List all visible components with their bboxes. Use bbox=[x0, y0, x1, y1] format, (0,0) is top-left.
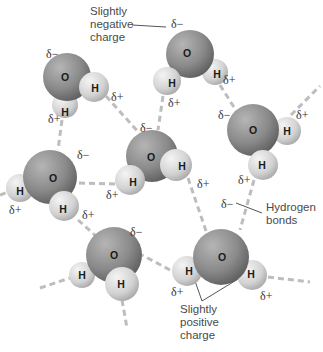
partial-positive: δ+ bbox=[168, 96, 180, 111]
atom-oxygen: O bbox=[218, 251, 226, 263]
partial-negative: δ− bbox=[221, 197, 233, 212]
hydrogen-bond bbox=[142, 255, 170, 270]
label-hydrogen-bonds: Hydrogen bonds bbox=[266, 201, 316, 227]
atom-hydrogen: H bbox=[258, 159, 266, 171]
partial-positive: δ+ bbox=[106, 188, 118, 203]
label-slightly-positive-charge: Slightly positive charge bbox=[180, 303, 219, 342]
partial-negative: δ− bbox=[140, 121, 152, 136]
atom-hydrogen: H bbox=[59, 203, 67, 215]
hydrogen-bond bbox=[40, 278, 70, 288]
atom-hydrogen: H bbox=[117, 278, 125, 290]
atom-hydrogen: H bbox=[91, 82, 99, 94]
partial-positive: δ+ bbox=[238, 173, 250, 188]
atom-hydrogen: H bbox=[247, 268, 255, 280]
partial-positive: δ+ bbox=[171, 285, 183, 300]
atom-hydrogen: H bbox=[168, 77, 176, 89]
partial-positive: δ+ bbox=[197, 177, 209, 192]
atom-hydrogen: H bbox=[61, 106, 69, 118]
atom-oxygen: O bbox=[249, 124, 257, 136]
partial-positive: δ+ bbox=[82, 208, 94, 223]
label-slightly-negative-charge: Slightly negative charge bbox=[90, 5, 133, 44]
atom-hydrogen: H bbox=[78, 269, 86, 281]
partial-negative: δ− bbox=[218, 108, 230, 123]
atom-hydrogen: H bbox=[185, 265, 193, 277]
partial-negative: δ− bbox=[130, 225, 142, 240]
hydrogen-bond bbox=[79, 183, 116, 184]
leader-negative bbox=[132, 25, 166, 27]
atom-hydrogen: H bbox=[16, 185, 24, 197]
partial-positive: δ+ bbox=[111, 90, 123, 105]
molecule-2 bbox=[153, 30, 228, 95]
atom-hydrogen: H bbox=[283, 125, 291, 137]
atom-oxygen: O bbox=[183, 47, 191, 59]
partial-positive: δ+ bbox=[9, 203, 21, 218]
atom-hydrogen: H bbox=[178, 160, 186, 172]
hydrogen-bond bbox=[158, 96, 163, 130]
partial-positive: δ+ bbox=[260, 289, 272, 304]
atom-oxygen: O bbox=[49, 172, 57, 184]
partial-negative: δ− bbox=[171, 17, 183, 32]
partial-positive: δ+ bbox=[48, 112, 60, 127]
atom-oxygen: O bbox=[61, 71, 69, 83]
atom-hydrogen: H bbox=[213, 68, 221, 80]
leader-hbond bbox=[236, 203, 262, 213]
partial-positive: δ+ bbox=[223, 73, 235, 88]
partial-negative: δ− bbox=[77, 148, 89, 163]
molecule-1 bbox=[43, 53, 109, 118]
hydrogen-bond bbox=[268, 277, 310, 282]
atom-hydrogen: H bbox=[129, 176, 137, 188]
water-hydrogen-bond-diagram: O H H O H H O H H O H H O H H O H H O H … bbox=[0, 0, 323, 352]
partial-positive: δ+ bbox=[296, 108, 308, 123]
atom-oxygen: O bbox=[110, 249, 118, 261]
hydrogen-bond bbox=[122, 300, 127, 328]
atom-oxygen: O bbox=[147, 151, 155, 163]
partial-negative: δ− bbox=[46, 47, 58, 62]
